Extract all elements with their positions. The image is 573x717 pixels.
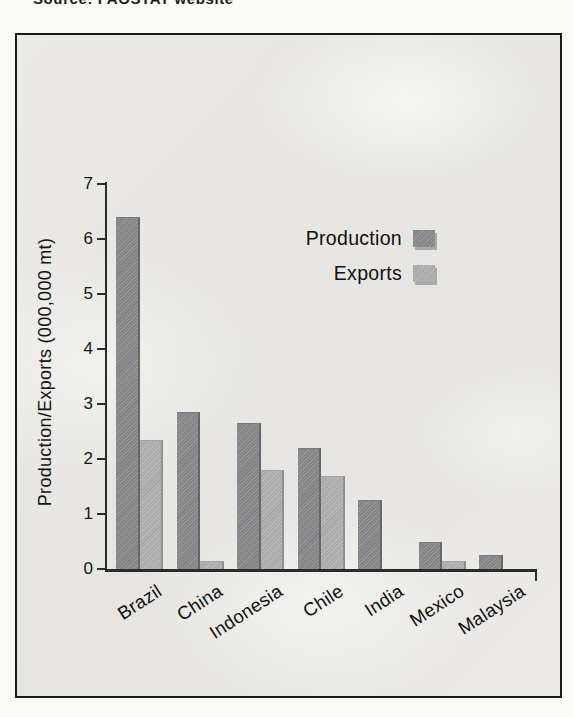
y-tick-5 <box>97 293 105 295</box>
y-tick-label-0: 0 <box>67 559 93 579</box>
x-category-label-brazil: Brazil <box>114 580 166 625</box>
bar-exports-brazil <box>140 440 164 569</box>
y-tick-label-3: 3 <box>67 394 93 414</box>
chart-frame: Production/Exports (000,000 mt) BrazilCh… <box>15 33 562 698</box>
x-axis-line <box>105 569 537 572</box>
bar-production-malaysia <box>479 555 503 569</box>
y-tick-0 <box>97 568 105 570</box>
y-tick-label-4: 4 <box>67 339 93 359</box>
y-tick-7 <box>97 183 105 185</box>
y-tick-label-1: 1 <box>67 504 93 524</box>
y-tick-3 <box>97 403 105 405</box>
bar-exports-indonesia <box>261 470 285 569</box>
y-tick-label-7: 7 <box>67 174 93 194</box>
y-tick-label-5: 5 <box>67 284 93 304</box>
legend-swatch-production-icon <box>413 230 435 247</box>
bar-exports-chile <box>321 476 345 570</box>
y-tick-1 <box>97 513 105 515</box>
y-tick-2 <box>97 458 105 460</box>
legend-entry-production: Production <box>306 227 435 249</box>
page: { "caption": "Source: FAOSTAT website", … <box>0 0 573 717</box>
legend-label-production: Production <box>306 227 402 250</box>
source-caption: Source: FAOSTAT website <box>33 0 353 8</box>
bar-production-china <box>177 412 201 569</box>
bar-exports-mexico <box>442 561 466 569</box>
x-category-label-chile: Chile <box>299 580 348 622</box>
y-tick-label-2: 2 <box>67 449 93 469</box>
bar-production-brazil <box>116 217 140 569</box>
legend: Production Exports <box>306 227 435 297</box>
plot-area: BrazilChinaIndonesiaChileIndiaMexicoMala… <box>17 35 560 696</box>
y-axis-line <box>105 182 107 571</box>
y-tick-4 <box>97 348 105 350</box>
bar-production-chile <box>298 448 322 569</box>
legend-swatch-exports-icon <box>413 265 435 282</box>
bar-exports-china <box>200 561 224 569</box>
x-category-label-malaysia: Malaysia <box>454 580 529 640</box>
source-caption-text: Source: FAOSTAT website <box>33 0 234 7</box>
bar-production-india <box>358 500 382 569</box>
x-axis-end-tick <box>535 569 537 581</box>
y-tick-6 <box>97 238 105 240</box>
y-tick-label-6: 6 <box>67 229 93 249</box>
x-category-label-india: India <box>361 580 408 621</box>
legend-entry-exports: Exports <box>306 262 435 284</box>
bar-production-indonesia <box>237 423 261 569</box>
bar-production-mexico <box>419 542 443 570</box>
legend-label-exports: Exports <box>334 262 402 285</box>
